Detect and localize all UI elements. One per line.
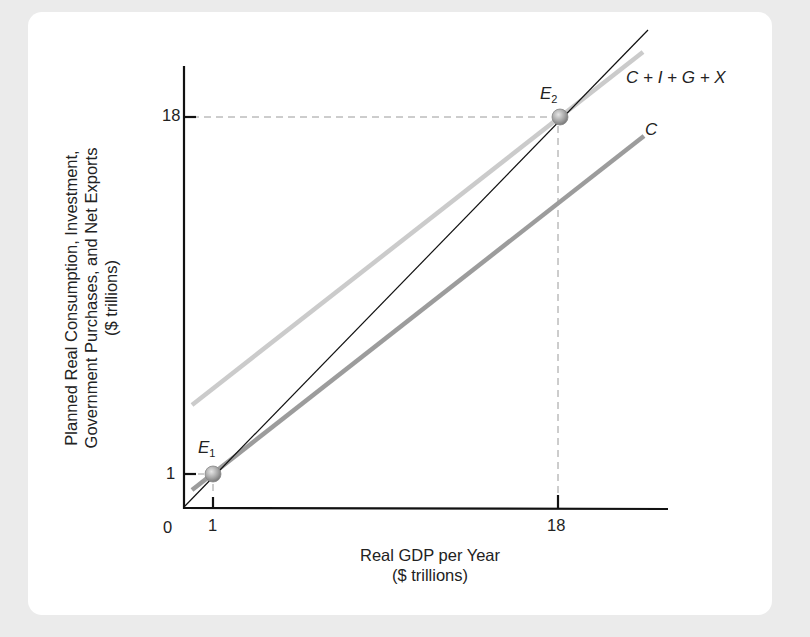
- c-line-label: C: [645, 120, 657, 140]
- y-tick-label-18: 18: [162, 106, 180, 125]
- e1-point: [205, 466, 221, 482]
- x-axis: [183, 508, 668, 509]
- x-axis-label: Real GDP per Year ($ trillions): [270, 545, 590, 585]
- y-tick-label-1: 1: [166, 464, 175, 483]
- x-tick-label-0: 0: [163, 518, 172, 537]
- x-tick-label-18: 18: [547, 516, 565, 535]
- x-tick-label-1: 1: [208, 516, 217, 535]
- e2-label: E2: [540, 84, 557, 105]
- e2-point: [552, 109, 568, 125]
- reference-lines: [192, 117, 558, 497]
- forty-five-degree-line: [184, 30, 648, 507]
- y-axis-label: Planned Real Consumption, Investment, Go…: [61, 108, 121, 488]
- aggregate-expenditure-label: C + I + G + X: [626, 68, 726, 88]
- chart-plot: [0, 0, 810, 637]
- c-line: [192, 136, 644, 490]
- e1-label: E1: [198, 438, 215, 459]
